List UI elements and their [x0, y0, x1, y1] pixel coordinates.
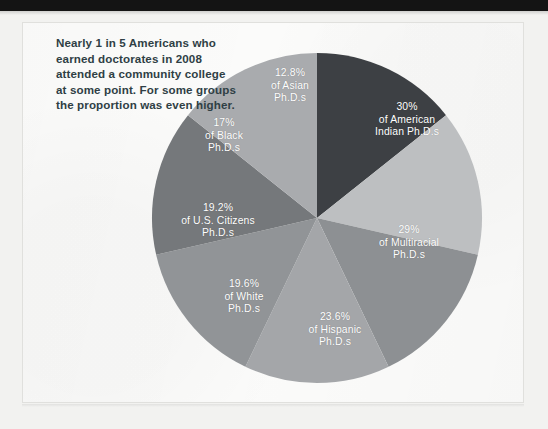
top-bar-shadow [0, 11, 548, 15]
slice-group-line-1: of White [224, 291, 263, 304]
slice-group-line-1: of Multiracial [379, 237, 439, 250]
pie-slice-label-asian: 12.8%of AsianPh.D.s [271, 67, 309, 105]
top-black-bar [0, 0, 548, 11]
slice-group-line-2: Ph.D.s [271, 92, 309, 105]
slice-percent: 19.2% [181, 202, 255, 215]
slice-group-line-1: of Hispanic [309, 324, 362, 337]
slice-group-line-2: Ph.D.s [309, 336, 362, 349]
pie-slice-label-multiracial: 29%of MultiracialPh.D.s [379, 224, 439, 262]
page-bottom-shadow [22, 404, 524, 407]
pie-slice-label-black: 17%of BlackPh.D.s [205, 117, 243, 155]
pie-slice-label-white: 19.6%of WhitePh.D.s [224, 278, 263, 316]
slice-percent: 29% [379, 224, 439, 237]
pie-slice-label-american-indian: 30%of AmericanIndian Ph.D.s [375, 101, 439, 139]
slice-group-line-1: of American [375, 114, 439, 127]
slice-percent: 23.6% [309, 311, 362, 324]
slice-group-line-2: Indian Ph.D.s [375, 126, 439, 139]
slice-group-line-2: Ph.D.s [379, 249, 439, 262]
slice-group-line-1: of U.S. Citizens [181, 215, 255, 228]
figure-panel: 30%of AmericanIndian Ph.D.s29%of Multira… [22, 22, 524, 403]
slice-percent: 12.8% [271, 67, 309, 80]
figure-caption: Nearly 1 in 5 Americans who earned docto… [56, 35, 238, 113]
slice-percent: 19.6% [224, 278, 263, 291]
slice-percent: 30% [375, 101, 439, 114]
slice-group-line-2: Ph.D.s [224, 303, 263, 316]
pie-slice-label-hispanic: 23.6%of HispanicPh.D.s [309, 311, 362, 349]
slice-percent: 17% [205, 117, 243, 130]
slice-group-line-2: Ph.D.s [181, 227, 255, 240]
pie-slice-label-us-citizens: 19.2%of U.S. CitizensPh.D.s [181, 202, 255, 240]
slice-group-line-1: of Asian [271, 80, 309, 93]
slice-group-line-1: of Black [205, 130, 243, 143]
slice-group-line-2: Ph.D.s [205, 142, 243, 155]
